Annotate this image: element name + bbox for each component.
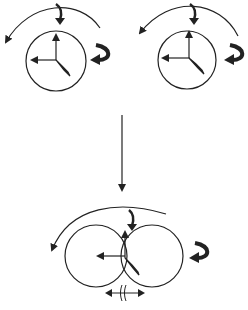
arrowhead-icon — [90, 54, 100, 65]
panel-bottom-merged — [52, 207, 207, 301]
oscillation-icon — [105, 285, 145, 301]
arrowhead-icon — [55, 18, 65, 25]
arrowhead-icon — [224, 54, 234, 65]
clock-circle — [158, 31, 216, 89]
curved-down-arrow-icon — [129, 210, 133, 226]
outer-rotation-arc — [52, 207, 166, 250]
rotation-merge-diagram — [0, 0, 248, 310]
arrowhead-icon — [189, 18, 199, 25]
right-circle — [121, 225, 183, 287]
panel-top-right — [140, 4, 242, 89]
vector-diagonal — [125, 258, 139, 275]
curved-down-arrow-icon — [56, 4, 61, 20]
panel-top-left — [6, 4, 108, 91]
outer-rotation-arc — [6, 8, 100, 42]
vector-diagonal — [56, 60, 70, 76]
vector-diagonal — [189, 58, 204, 74]
arrowhead-icon — [189, 252, 199, 263]
